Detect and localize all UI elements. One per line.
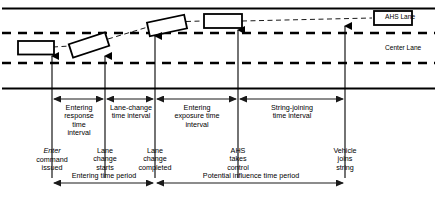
string-joining-time-interval-label: String-joining time interval: [242, 104, 342, 121]
event-lane-change-completed-label: Lane change completed: [127, 147, 183, 172]
figure-container: AHS Lane Center Lane Entering response t…: [0, 0, 437, 197]
ahs-lane-label: AHS Lane: [385, 13, 415, 21]
entering-time-period-label: Entering time period: [55, 172, 153, 180]
entering-exposure-time-interval-label: Entering exposure time interval: [159, 104, 235, 129]
vehicle-pos-1: [18, 41, 54, 55]
event-enter-command-issued-label: Enter command issued: [25, 139, 79, 173]
vehicle-pos-4: [204, 14, 242, 28]
event-vehicle-joins-string-label: Vehicle joins string: [323, 147, 367, 172]
center-lane-label: Center Lane: [385, 44, 421, 52]
event-lane-change-starts-label: Lane change starts: [81, 147, 129, 172]
vehicle-pos-2: [69, 32, 109, 57]
lane-change-time-interval-label: Lane-change time interval: [106, 104, 156, 121]
enter-command-rest: command issued: [36, 155, 68, 172]
event-ahs-takes-control-label: AHS takes control: [216, 147, 260, 172]
entering-response-time-interval-label: Entering response time interval: [56, 104, 102, 138]
potential-influence-time-period-label: Potential influence time period: [158, 172, 344, 180]
